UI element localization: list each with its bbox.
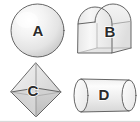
- geometry-figure: A B: [0, 0, 140, 122]
- shape-label-c: C: [28, 82, 39, 99]
- shape-label-a: A: [33, 22, 44, 39]
- shape-arch-prism-b: B: [78, 4, 131, 53]
- figure-canvas: A B: [0, 0, 140, 122]
- shape-sphere-a: A: [11, 4, 64, 57]
- shape-label-b: B: [105, 23, 116, 40]
- shape-cylinder-d: D: [74, 79, 136, 112]
- shape-octahedron-c: C: [11, 63, 61, 117]
- shape-label-d: D: [99, 86, 110, 103]
